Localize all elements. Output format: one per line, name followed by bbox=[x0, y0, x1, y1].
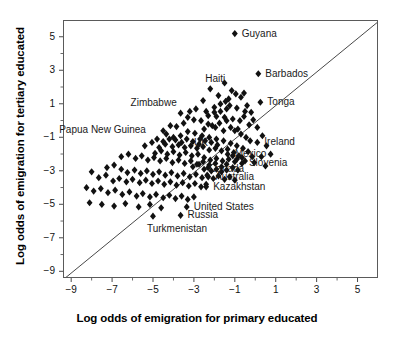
data-point bbox=[150, 171, 156, 178]
data-point bbox=[174, 182, 180, 189]
data-point bbox=[217, 120, 223, 127]
data-point bbox=[155, 177, 161, 184]
point-label-tonga: Tonga bbox=[267, 97, 294, 107]
scatter-plot-figure: Log odds of emigration for tertiary educ… bbox=[0, 0, 394, 337]
data-point bbox=[193, 105, 199, 112]
data-point bbox=[145, 156, 151, 163]
data-point bbox=[143, 177, 149, 184]
data-point bbox=[198, 117, 204, 124]
data-point bbox=[160, 194, 166, 201]
data-point bbox=[177, 151, 183, 158]
data-point bbox=[111, 203, 117, 210]
data-point bbox=[136, 203, 142, 210]
data-point bbox=[178, 110, 184, 117]
data-point bbox=[234, 105, 240, 112]
point-label-papua-new-guinea: Papua New Guinea bbox=[59, 125, 146, 135]
data-point bbox=[182, 144, 188, 151]
data-point bbox=[138, 170, 144, 177]
data-point bbox=[147, 193, 153, 200]
data-point bbox=[144, 167, 150, 174]
data-point bbox=[185, 128, 191, 135]
data-point bbox=[110, 177, 116, 184]
data-point bbox=[133, 155, 139, 162]
data-point bbox=[142, 142, 148, 149]
data-point bbox=[124, 169, 130, 176]
plot-area bbox=[64, 21, 377, 277]
data-point bbox=[241, 113, 247, 120]
data-point bbox=[218, 108, 224, 115]
data-point bbox=[213, 136, 219, 143]
data-point bbox=[104, 164, 110, 171]
data-point bbox=[139, 152, 145, 159]
plot-frame bbox=[63, 20, 378, 278]
data-point bbox=[254, 124, 260, 131]
data-point bbox=[176, 156, 182, 163]
data-point bbox=[87, 199, 93, 206]
data-point bbox=[195, 151, 201, 158]
data-point bbox=[96, 174, 102, 181]
point-label-guyana: Guyana bbox=[242, 29, 277, 39]
data-point bbox=[167, 122, 173, 129]
data-point bbox=[173, 195, 179, 202]
data-point bbox=[125, 151, 131, 158]
data-point bbox=[149, 180, 155, 187]
data-point bbox=[149, 139, 155, 146]
data-point bbox=[207, 85, 213, 92]
data-point bbox=[193, 171, 199, 178]
point-label-haiti: Haiti bbox=[205, 74, 225, 84]
data-point bbox=[189, 152, 195, 159]
data-point bbox=[183, 149, 189, 156]
data-point bbox=[162, 172, 168, 179]
data-point bbox=[178, 132, 184, 139]
data-point bbox=[169, 159, 175, 166]
data-point bbox=[84, 184, 90, 191]
data-point bbox=[230, 115, 236, 122]
data-point bbox=[192, 180, 198, 187]
data-point bbox=[154, 136, 160, 143]
data-point bbox=[215, 92, 221, 99]
data-point bbox=[198, 183, 204, 190]
data-point bbox=[221, 127, 227, 134]
data-point bbox=[91, 187, 97, 194]
data-point bbox=[105, 189, 111, 196]
data-point bbox=[257, 99, 263, 106]
data-point bbox=[150, 213, 156, 220]
data-point bbox=[191, 116, 197, 123]
data-point bbox=[248, 109, 254, 116]
data-point bbox=[186, 182, 192, 189]
data-point bbox=[246, 121, 252, 128]
data-point bbox=[221, 137, 227, 144]
data-point bbox=[199, 174, 205, 181]
data-point bbox=[237, 117, 243, 124]
data-point bbox=[232, 30, 238, 37]
point-label-russia: Russia bbox=[188, 210, 219, 220]
point-label-ireland: Ireland bbox=[264, 137, 295, 147]
data-point bbox=[103, 172, 109, 179]
data-point bbox=[157, 157, 163, 164]
data-point bbox=[174, 123, 180, 130]
point-label-uk: UK bbox=[194, 138, 208, 148]
data-point bbox=[156, 168, 162, 175]
point-label-zimbabwe: Zimbabwe bbox=[131, 98, 177, 108]
data-point bbox=[140, 190, 146, 197]
data-point bbox=[112, 187, 118, 194]
data-point bbox=[153, 191, 159, 198]
data-point bbox=[179, 192, 185, 199]
data-point bbox=[167, 178, 173, 185]
data-point bbox=[169, 143, 175, 150]
data-point bbox=[218, 100, 224, 107]
data-point bbox=[137, 179, 143, 186]
data-point bbox=[119, 191, 125, 198]
data-point bbox=[127, 188, 133, 195]
data-point bbox=[255, 70, 261, 77]
point-label-slovenia: Slovenia bbox=[249, 158, 287, 168]
point-label-barbados: Barbados bbox=[265, 69, 308, 79]
data-point bbox=[89, 168, 95, 175]
data-point bbox=[158, 204, 164, 211]
data-point bbox=[192, 130, 198, 137]
data-point bbox=[181, 120, 187, 127]
data-point bbox=[254, 139, 260, 146]
data-point bbox=[238, 130, 244, 137]
data-point bbox=[123, 178, 129, 185]
data-point bbox=[181, 170, 187, 177]
